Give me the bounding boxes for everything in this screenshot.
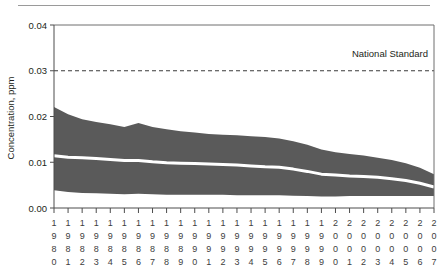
y-axis-tick-label: 0.02 xyxy=(29,111,48,122)
x-axis-tick-label-digit: 5 xyxy=(122,257,127,267)
chart-figure: 0.000.010.020.030.04 Concentration, ppm … xyxy=(0,0,444,274)
x-axis-tick-label-digit: 0 xyxy=(347,231,352,241)
x-axis-tick-label-digit: 9 xyxy=(206,231,211,241)
x-axis-tick-label-digit: 9 xyxy=(234,231,239,241)
x-axis-tick-label-digit: 9 xyxy=(319,244,324,254)
x-axis-tick-label-digit: 9 xyxy=(178,257,183,267)
x-axis-tick-label-digit: 8 xyxy=(80,244,85,254)
x-axis-tick-label-digit: 9 xyxy=(277,231,282,241)
x-axis-tick-label-digit: 9 xyxy=(206,244,211,254)
x-axis-tick-label-digit: 9 xyxy=(291,231,296,241)
x-axis-tick-label-digit: 8 xyxy=(66,244,71,254)
x-axis-tick-label-digit: 0 xyxy=(361,244,366,254)
x-axis-tick-label-digit: 1 xyxy=(234,218,239,228)
x-axis-tick-label-digit: 0 xyxy=(375,244,380,254)
x-axis-tick-label-digit: 1 xyxy=(66,257,71,267)
x-axis-tick-label-digit: 1 xyxy=(319,218,324,228)
x-axis-tick-label-digit: 2 xyxy=(417,218,422,228)
y-axis-label: Concentration, ppm xyxy=(5,76,16,159)
x-axis-tick-label-digit: 1 xyxy=(94,218,99,228)
x-axis-tick-label-digit: 9 xyxy=(192,231,197,241)
x-axis-tick-label-digit: 9 xyxy=(178,231,183,241)
y-axis-tick-label: 0.04 xyxy=(29,20,48,31)
x-axis-tick-label-digit: 2 xyxy=(403,218,408,228)
x-axis-tick-label-digit: 1 xyxy=(66,218,71,228)
x-axis-tick-label-digit: 6 xyxy=(417,257,422,267)
x-axis-tick-label-digit: 8 xyxy=(305,257,310,267)
x-axis-tick-label-digit: 0 xyxy=(403,244,408,254)
x-axis-tick-label-digit: 4 xyxy=(389,257,394,267)
x-axis-tick-label-digit: 3 xyxy=(375,257,380,267)
x-axis-tick-label-digit: 1 xyxy=(206,218,211,228)
x-axis-tick-label-digit: 0 xyxy=(333,244,338,254)
x-axis-tick-label-digit: 1 xyxy=(220,218,225,228)
x-axis-tick-label-digit: 3 xyxy=(234,257,239,267)
x-axis-tick-label-digit: 9 xyxy=(220,244,225,254)
x-axis-tick-label-digit: 8 xyxy=(51,244,56,254)
x-axis-tick-label-digit: 9 xyxy=(94,231,99,241)
x-axis-tick-label-digit: 1 xyxy=(249,218,254,228)
x-axis-tick-label-digit: 0 xyxy=(389,244,394,254)
x-axis-tick-label-digit: 7 xyxy=(291,257,296,267)
x-axis-tick-label-digit: 9 xyxy=(80,231,85,241)
x-axis-tick-label-digit: 0 xyxy=(389,231,394,241)
x-axis-tick-label-digit: 2 xyxy=(80,257,85,267)
x-axis-tick-label-digit: 1 xyxy=(122,218,127,228)
x-axis-tick-label-digit: 1 xyxy=(263,218,268,228)
x-axis-tick-label-digit: 0 xyxy=(417,244,422,254)
y-axis-tick-label: 0.03 xyxy=(29,65,48,76)
x-axis-tick-label-digit: 1 xyxy=(136,218,141,228)
x-axis-tick-label-digit: 1 xyxy=(164,218,169,228)
x-axis-tick-label-digit: 6 xyxy=(277,257,282,267)
x-axis-tick-label-digit: 4 xyxy=(108,257,113,267)
x-axis-tick-label-digit: 3 xyxy=(94,257,99,267)
x-axis-tick-label-digit: 5 xyxy=(263,257,268,267)
percentile-band-area xyxy=(54,107,434,197)
x-axis-tick-label-digit: 9 xyxy=(164,231,169,241)
x-axis-tick-label-digit: 2 xyxy=(361,218,366,228)
x-axis-tick-label-digit: 9 xyxy=(249,231,254,241)
x-axis-tick-label-digit: 9 xyxy=(150,231,155,241)
x-axis-tick-label-digit: 9 xyxy=(263,231,268,241)
x-axis-tick-label-digit: 8 xyxy=(136,244,141,254)
x-axis-tick-label-digit: 8 xyxy=(178,244,183,254)
x-axis-tick-label-digit: 2 xyxy=(220,257,225,267)
x-axis-tick-label-digit: 0 xyxy=(347,244,352,254)
x-axis-tick-label-digit: 9 xyxy=(122,231,127,241)
x-axis-tick-label-digit: 0 xyxy=(333,231,338,241)
x-axis-tick-label-digit: 6 xyxy=(136,257,141,267)
x-axis-tick-label-digit: 0 xyxy=(417,231,422,241)
concentration-trend-chart: 0.000.010.020.030.04 Concentration, ppm … xyxy=(0,0,444,274)
x-axis-tick-label-digit: 2 xyxy=(375,218,380,228)
x-axis-tick-label-digit: 2 xyxy=(389,218,394,228)
x-axis-tick-label-digit: 9 xyxy=(263,244,268,254)
x-axis-tick-label-digit: 0 xyxy=(192,257,197,267)
x-axis-tick-labels: 1980198119821983198419851986198719881989… xyxy=(51,218,436,267)
x-axis-tick-label-digit: 9 xyxy=(51,231,56,241)
x-axis-tick-label-digit: 4 xyxy=(249,257,254,267)
x-axis-tick-label-digit: 1 xyxy=(192,218,197,228)
x-axis-tick-label-digit: 9 xyxy=(192,244,197,254)
x-axis-tick-label-digit: 1 xyxy=(51,218,56,228)
x-axis-tick-label-digit: 9 xyxy=(66,231,71,241)
x-axis-tick-label-digit: 2 xyxy=(347,218,352,228)
x-axis-tick-label-digit: 0 xyxy=(361,231,366,241)
x-axis-tick-label-digit: 1 xyxy=(150,218,155,228)
x-axis-tick-label-digit: 9 xyxy=(319,231,324,241)
x-axis-tick-label-digit: 1 xyxy=(178,218,183,228)
x-axis-tick-label-digit: 8 xyxy=(94,244,99,254)
x-axis-tick-label-digit: 0 xyxy=(375,231,380,241)
x-axis-tick-label-digit: 1 xyxy=(108,218,113,228)
x-axis-tick-label-digit: 7 xyxy=(431,257,436,267)
x-axis-tick-label-digit: 5 xyxy=(403,257,408,267)
x-axis-tick-label-digit: 8 xyxy=(122,244,127,254)
national-standard-label: National Standard xyxy=(352,48,428,59)
x-axis-tick-label-digit: 0 xyxy=(51,257,56,267)
band-path xyxy=(54,107,434,197)
x-axis-tick-label-digit: 8 xyxy=(164,244,169,254)
x-axis-ticks xyxy=(54,208,434,213)
x-axis-tick-label-digit: 1 xyxy=(277,218,282,228)
x-axis-tick-label-digit: 9 xyxy=(305,231,310,241)
x-axis-tick-label-digit: 9 xyxy=(305,244,310,254)
y-axis-label-text: Concentration, ppm xyxy=(5,76,16,159)
